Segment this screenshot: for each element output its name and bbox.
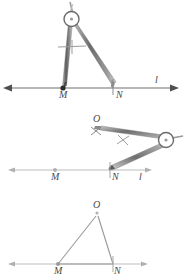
construction-step-2: M N O l: [0, 102, 186, 198]
line-l: [3, 85, 179, 92]
arrowhead-left: [8, 168, 15, 173]
label-M: M: [51, 172, 59, 182]
label-M: M: [54, 266, 62, 276]
compass-hinge-pin: [164, 138, 167, 141]
label-O: O: [93, 200, 100, 210]
compass-left-leg: [63, 22, 73, 87]
compass-right-leg: [73, 22, 117, 84]
arrowhead-right: [141, 262, 148, 267]
step-1-drawing: [0, 0, 186, 102]
label-N: N: [114, 266, 121, 276]
label-line-l: l: [139, 172, 142, 182]
compass-lower-leg: [110, 142, 167, 170]
segment-NO: [98, 216, 113, 264]
compass-hinge-pin: [70, 17, 73, 20]
compass-tool: [58, 2, 116, 89]
construction-step-3: M N O: [0, 198, 186, 280]
label-line-l: l: [155, 75, 158, 85]
geometry-figure: M N l: [0, 0, 186, 280]
arrowhead-left: [8, 262, 15, 267]
segment-MO: [58, 216, 96, 264]
triangle-MNO: [58, 216, 113, 264]
compass-upper-leg: [100, 126, 164, 139]
compass-tool: [94, 126, 183, 171]
step-3-drawing: [0, 198, 186, 280]
label-M: M: [59, 90, 67, 100]
compass-adjust-screw: [118, 135, 128, 145]
point-O-marker: [95, 211, 98, 214]
label-N: N: [112, 172, 119, 182]
arrowhead-left: [3, 85, 12, 92]
arrowhead-right: [170, 85, 179, 92]
construction-step-1: M N l: [0, 0, 186, 102]
label-O: O: [93, 114, 100, 124]
arrowhead-right: [145, 168, 152, 173]
line-l: [8, 168, 152, 173]
label-N: N: [116, 90, 123, 100]
